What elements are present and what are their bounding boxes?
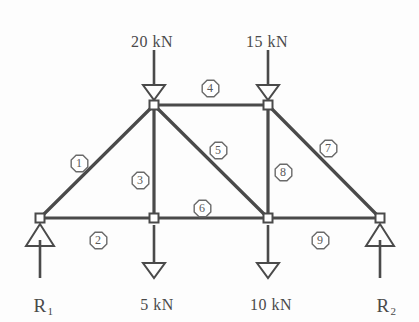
member-number-label-2: 2 [95,233,101,247]
member-number-1: 1 [69,153,90,174]
member-number-label-5: 5 [215,143,221,157]
member-number-8: 8 [273,162,294,183]
truss-diagram: 12345678920 kN15 kN5 kN10 kNR1R2 [0,0,419,322]
member-number-label-7: 7 [325,141,331,155]
supports-group [26,224,394,246]
load-10kn-arrow [257,225,279,278]
member-number-7: 7 [318,138,339,159]
load-10kn-label: 10 kN [250,296,292,314]
joint-top-left [150,101,159,110]
member-line-1 [40,105,154,218]
member-number-label-6: 6 [199,201,205,215]
reaction-r1-label: R1 [33,295,52,317]
joint-bottom-mid-right [264,214,273,223]
reaction-r2-symbol: R [376,295,389,316]
load-15kn-label: 15 kN [246,33,288,51]
joint-top-right [264,101,273,110]
member-number-label-8: 8 [280,165,286,179]
joint-bottom-left [36,214,45,223]
load-20kn-head [143,85,165,100]
member-number-5: 5 [208,140,229,161]
load-15kn-head [257,85,279,100]
reaction-r2-label: R2 [376,295,395,317]
member-number-3: 3 [130,170,151,191]
member-number-4: 4 [200,78,221,99]
member-number-label-3: 3 [137,173,143,187]
load-5kn-head [143,263,165,278]
truss-svg-canvas [0,0,419,322]
member-number-6: 6 [192,198,213,219]
load-20kn-arrow [143,50,165,100]
load-5kn-label: 5 kN [140,296,174,314]
member-number-label-4: 4 [207,81,213,95]
load-5kn-arrow [143,225,165,278]
member-number-label-1: 1 [76,156,82,170]
member-number-label-9: 9 [317,233,323,247]
load-10kn-head [257,263,279,278]
reaction-r1-subscript: 1 [48,305,54,317]
member-number-9: 9 [310,230,331,251]
load-20kn-label: 20 kN [131,33,173,51]
joint-bottom-mid-left [150,214,159,223]
member-number-2: 2 [88,230,109,251]
load-15kn-arrow [257,50,279,100]
reaction-r2-subscript: 2 [391,305,397,317]
reaction-r1-symbol: R [33,295,46,316]
joint-bottom-right [376,214,385,223]
